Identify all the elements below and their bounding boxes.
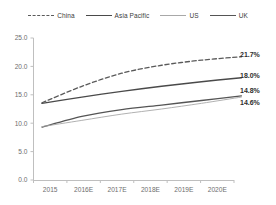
line-chart: China Asia Pacific US UK 0.05.010.015.02…: [0, 0, 276, 205]
y-tick-label: 20.0: [15, 63, 28, 70]
series-lines: [42, 57, 241, 127]
series-line-china: [42, 57, 241, 103]
series-end-labels: 21.7%18.0%14.8%14.6%: [240, 51, 261, 106]
x-tick-label: 2017E: [108, 186, 128, 193]
x-axis-tick-labels: 20152016E2017E2018E2019E2020E: [43, 186, 228, 193]
x-tick-label: 2018E: [141, 186, 161, 193]
y-tick-label: 10.0: [15, 120, 28, 127]
y-axis-tick-labels: 0.05.010.015.020.025.0: [15, 34, 28, 183]
x-tick-label: 2020E: [208, 186, 228, 193]
end-label-us: 14.6%: [240, 99, 261, 106]
end-label-china: 21.7%: [240, 51, 261, 58]
end-label-uk: 14.8%: [240, 87, 261, 94]
y-tick-label: 5.0: [18, 148, 27, 155]
x-tick-label: 2019E: [174, 186, 194, 193]
y-tick-label: 25.0: [15, 34, 28, 41]
series-line-us: [42, 97, 241, 127]
y-tick-label: 0.0: [18, 176, 27, 183]
plot-area: 0.05.010.015.020.025.0 20152016E2017E201…: [0, 0, 276, 205]
x-tick-label: 2016E: [74, 186, 94, 193]
x-tick-label: 2015: [43, 186, 58, 193]
end-label-asia-pacific: 18.0%: [240, 72, 261, 79]
y-tick-label: 15.0: [15, 91, 28, 98]
